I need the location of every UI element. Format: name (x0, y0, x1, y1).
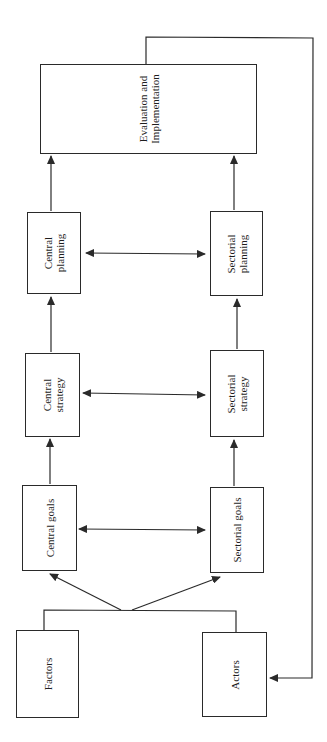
sectorial-goals-label: Sectorial goals (231, 497, 243, 562)
evaluation-label-line2: Implementation (149, 74, 161, 144)
arrow-to-sectorial-goals (132, 577, 220, 610)
central-strategy-line2: strategy (53, 378, 65, 413)
sectorial-planning-line2: planning (237, 234, 249, 273)
central-strategy-label: Central strategy (41, 378, 65, 413)
central-strategy-box: Central strategy (25, 353, 80, 437)
arrow-goals-bidirectional (79, 529, 205, 530)
central-goals-box: Central goals (22, 485, 77, 571)
sectorial-planning-label: Sectorial planning (225, 234, 249, 273)
actors-label: Actors (229, 660, 241, 689)
evaluation-label-line1: Evaluation and (137, 74, 149, 144)
sectorial-planning-box: Sectorial planning (210, 211, 263, 296)
arrow-to-central-goals (50, 574, 121, 610)
sectorial-strategy-line2: strategy (237, 374, 249, 413)
sectorial-strategy-box: Sectorial strategy (210, 350, 264, 437)
factors-label: Factors (42, 658, 54, 690)
central-planning-box: Central planning (27, 212, 81, 294)
arrow-strategy-bidirectional (83, 393, 205, 395)
evaluation-implementation-box: Evaluation and Implementation (40, 64, 257, 154)
evaluation-label: Evaluation and Implementation (137, 74, 161, 144)
sectorial-strategy-line1: Sectorial (225, 374, 237, 413)
factors-box: Factors (16, 630, 79, 718)
central-goals-label: Central goals (44, 499, 56, 557)
central-planning-label: Central planning (42, 234, 66, 273)
arrow-planning-bidirectional (86, 253, 205, 254)
central-planning-line2: planning (54, 234, 66, 273)
actors-box: Actors (202, 632, 267, 717)
sectorial-planning-line1: Sectorial (225, 234, 237, 273)
central-strategy-line1: Central (41, 378, 53, 413)
central-planning-line1: Central (42, 234, 54, 273)
sectorial-goals-box: Sectorial goals (210, 487, 264, 573)
factors-actors-bracket (44, 610, 236, 632)
sectorial-strategy-label: Sectorial strategy (225, 374, 249, 413)
